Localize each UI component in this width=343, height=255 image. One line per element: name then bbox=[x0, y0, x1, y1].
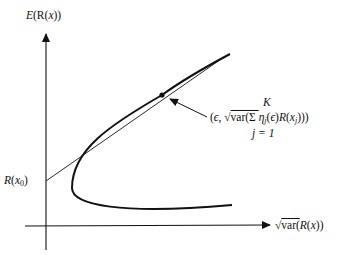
pointer-arrow bbox=[170, 99, 207, 117]
intercept-var: R bbox=[4, 174, 11, 186]
x-axis bbox=[25, 225, 270, 226]
point-k-label: K bbox=[263, 97, 271, 109]
x-label-var: R bbox=[300, 219, 307, 231]
tangency-point bbox=[159, 92, 164, 97]
y-label-prefix: E bbox=[26, 9, 33, 21]
intercept-close: ) bbox=[24, 174, 28, 186]
formula-R: R bbox=[279, 111, 286, 123]
point-k-formula: (ϵ, √var(Σ ηj(ϵ)R(xj))) bbox=[210, 112, 309, 125]
formula-var: var(Σ bbox=[231, 111, 259, 123]
tangent-line bbox=[46, 57, 224, 181]
frontier-curve bbox=[72, 54, 232, 209]
diagram-canvas bbox=[0, 0, 343, 255]
y-label-suffix: )) bbox=[53, 9, 61, 21]
y-label-text: (R( bbox=[33, 9, 48, 21]
x-label-text: var( bbox=[281, 219, 300, 231]
y-axis-label: E(R(x)) bbox=[26, 10, 61, 22]
intercept-label: R(x0) bbox=[4, 175, 28, 188]
formula-close: ))) bbox=[297, 111, 309, 123]
x-label-close: )) bbox=[316, 219, 324, 231]
x-axis-label: √var(R(x)) bbox=[275, 220, 323, 232]
index-label: j = 1 bbox=[252, 128, 274, 140]
